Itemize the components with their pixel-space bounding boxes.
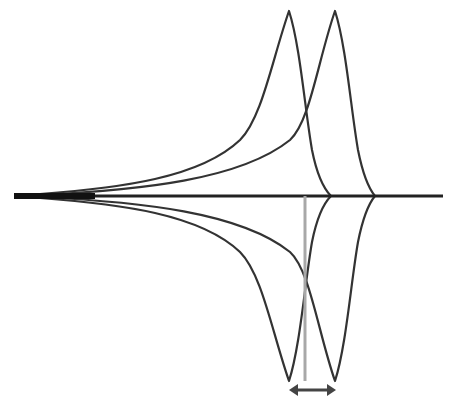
lower-curve-2 [40, 196, 375, 381]
peak-shift-diagram [0, 0, 455, 410]
lower-curve-1 [40, 196, 331, 381]
shift-double-arrow-icon [289, 384, 336, 396]
upper-curve-2 [40, 11, 375, 196]
upper-curve-1 [40, 11, 331, 196]
